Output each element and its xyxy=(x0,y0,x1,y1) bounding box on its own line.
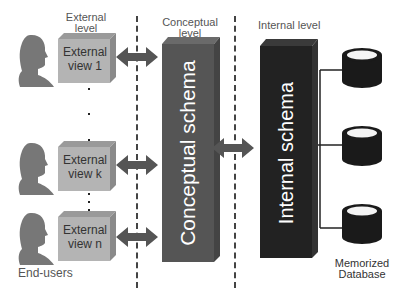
external-view-k-line2: view k xyxy=(58,167,112,181)
external-view-1-line2: view 1 xyxy=(58,59,112,73)
double-arrow-icon xyxy=(116,155,158,175)
external-view-n-line1: External xyxy=(58,223,112,237)
double-arrow-icon xyxy=(116,227,158,247)
memorized-database-label: Memorized Database xyxy=(330,258,394,280)
internal-block-side xyxy=(312,39,318,258)
internal-schema-label: Internal schema xyxy=(273,53,299,253)
three-level-architecture-diagram: External level Conceptual level Internal… xyxy=(0,0,406,298)
conceptual-schema-label: Conceptual schema xyxy=(175,43,201,263)
external-view-1-label: External view 1 xyxy=(58,45,112,73)
external-view-k-line1: External xyxy=(58,153,112,167)
end-users-label: End-users xyxy=(18,268,78,279)
database-label-line2: Database xyxy=(330,269,394,280)
person-icon-k xyxy=(19,143,54,195)
person-icon-n xyxy=(19,213,54,265)
database-icon-3 xyxy=(342,204,382,244)
double-arrow-icon xyxy=(116,47,158,67)
external-view-n-line2: view n xyxy=(58,237,112,251)
ellipsis-dot xyxy=(88,139,90,141)
ellipsis-dot xyxy=(88,209,90,211)
ellipsis-dot xyxy=(88,201,90,203)
database-icon-1 xyxy=(342,48,382,88)
person-icon-1 xyxy=(19,35,54,87)
internal-block-top xyxy=(260,39,318,46)
ellipsis-dot xyxy=(88,193,90,195)
external-view-n-label: External view n xyxy=(58,223,112,251)
ellipsis-dot xyxy=(88,88,90,90)
external-view-k-label: External view k xyxy=(58,153,112,181)
database-icon-2 xyxy=(342,126,382,166)
ellipsis-dot xyxy=(88,113,90,115)
external-view-1-line1: External xyxy=(58,45,112,59)
